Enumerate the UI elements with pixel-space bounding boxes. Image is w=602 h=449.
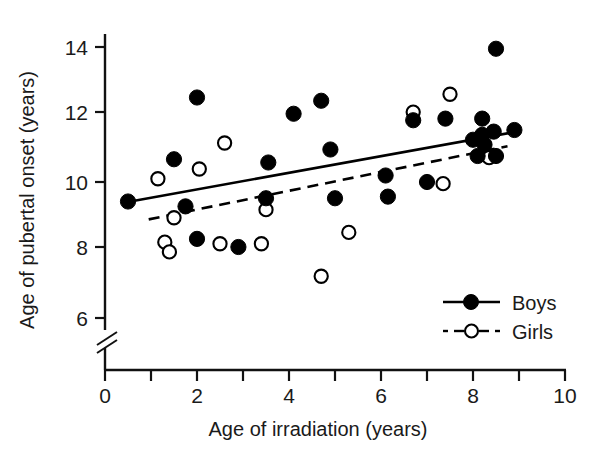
y-axis-title: Age of pubertal onset (years): [16, 71, 38, 329]
data-point-girls-12: [437, 177, 450, 190]
data-point-boys-9: [314, 93, 329, 108]
y-tick-label-10: 10: [65, 171, 88, 194]
data-point-boys-8: [286, 106, 301, 121]
data-point-boys-14: [406, 113, 421, 128]
data-point-girls-6: [218, 136, 231, 149]
x-tick-label-6: 6: [375, 384, 387, 407]
boys-data-points-group: [120, 41, 522, 254]
data-point-boys-12: [378, 168, 393, 183]
legend: Boys Girls: [443, 292, 556, 343]
data-point-boys-1: [166, 152, 181, 167]
data-point-boys-13: [380, 189, 395, 204]
data-point-boys-15: [419, 174, 434, 189]
y-tick-label-14: 14: [65, 36, 89, 59]
data-point-boys-4: [189, 231, 204, 246]
data-point-girls-9: [315, 270, 328, 283]
plot-canvas: 14 12 10 8 6 0 2 4 6: [0, 0, 602, 449]
legend-label-boys: Boys: [512, 292, 556, 314]
data-point-boys-23: [488, 41, 503, 56]
data-point-girls-4: [193, 162, 206, 175]
x-tick-label-2: 2: [191, 384, 203, 407]
data-point-boys-6: [258, 191, 273, 206]
data-point-boys-22: [486, 124, 501, 139]
x-axis-ticks: 0 2 4 6 8 10: [99, 370, 577, 407]
data-point-girls-13: [443, 88, 456, 101]
data-point-boys-24: [488, 148, 503, 163]
data-point-boys-19: [475, 111, 490, 126]
data-point-boys-2: [178, 199, 193, 214]
legend-marker-boys: [464, 295, 479, 310]
y-tick-label-6: 6: [76, 307, 88, 330]
data-point-girls-5: [213, 237, 226, 250]
y-axis-ticks: 14 12 10 8 6: [65, 36, 105, 330]
data-point-boys-16: [438, 111, 453, 126]
legend-marker-girls: [465, 325, 478, 338]
data-point-boys-21: [477, 137, 492, 152]
data-point-girls-2: [163, 245, 176, 258]
data-point-girls-3: [167, 211, 180, 224]
x-tick-label-10: 10: [553, 384, 576, 407]
x-tick-label-0: 0: [99, 384, 111, 407]
data-point-boys-3: [189, 90, 204, 105]
data-point-girls-10: [342, 226, 355, 239]
x-tick-label-8: 8: [467, 384, 479, 407]
data-point-boys-11: [327, 191, 342, 206]
regression-line-boys: [130, 132, 516, 202]
scatter-plot-figure: 14 12 10 8 6 0 2 4 6: [0, 0, 602, 449]
y-tick-label-12: 12: [65, 101, 88, 124]
x-axis-title: Age of irradiation (years): [209, 418, 428, 440]
y-tick-label-8: 8: [76, 236, 88, 259]
data-point-girls-0: [151, 172, 164, 185]
data-point-boys-0: [120, 194, 135, 209]
data-point-boys-10: [323, 142, 338, 157]
data-point-boys-5: [231, 239, 246, 254]
data-point-boys-25: [507, 122, 522, 137]
x-tick-label-4: 4: [283, 384, 295, 407]
legend-label-girls: Girls: [512, 321, 553, 343]
data-point-girls-7: [255, 237, 268, 250]
data-point-boys-7: [261, 155, 276, 170]
